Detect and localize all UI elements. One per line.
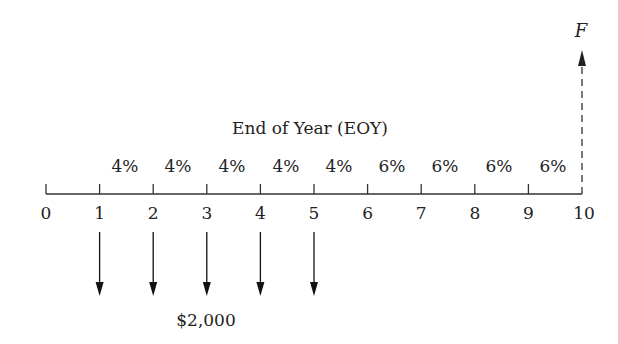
rate-label: 4%: [273, 158, 300, 175]
rate-label: 4%: [165, 158, 192, 175]
rate-label: 4%: [326, 158, 353, 175]
tick-label: 1: [94, 205, 105, 222]
tick-label: 3: [201, 205, 212, 222]
rate-label: 6%: [486, 158, 513, 175]
rate-label: 4%: [112, 158, 139, 175]
tick-label: 9: [523, 205, 534, 222]
tick-label: 6: [362, 205, 373, 222]
rate-label: 6%: [379, 158, 406, 175]
future-value-arrow: [578, 50, 586, 194]
tick-label: 7: [416, 205, 427, 222]
time-axis: [46, 184, 582, 194]
payment-amount-label: $2,000: [176, 312, 235, 329]
tick-label: 10: [573, 205, 595, 222]
tick-label: 0: [41, 205, 52, 222]
payment-arrows: [96, 232, 318, 296]
tick-label: 8: [469, 205, 480, 222]
rate-label: 6%: [540, 158, 567, 175]
tick-label: 2: [148, 205, 159, 222]
tick-label: 5: [309, 205, 320, 222]
rate-label: 4%: [219, 158, 246, 175]
rate-label: 6%: [432, 158, 459, 175]
cash-flow-diagram: [0, 0, 618, 344]
tick-label: 4: [255, 205, 266, 222]
